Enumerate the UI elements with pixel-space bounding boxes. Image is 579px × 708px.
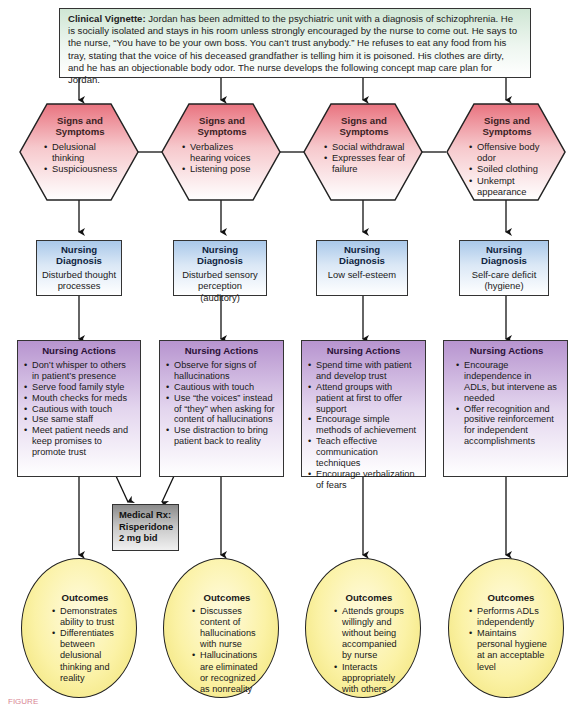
signs-title: Signs and Symptoms — [465, 115, 549, 137]
sign-item: Delusional thinking — [44, 141, 122, 163]
signs-title: Signs and Symptoms — [322, 115, 406, 137]
vignette-label: Clinical Vignette: — [68, 13, 146, 24]
clinical-vignette-box: Clinical Vignette: Jordan has been admit… — [59, 8, 531, 78]
diagnosis-text: Self-care deficit (hygiene) — [464, 269, 544, 292]
action-item: Encourage verbalization of fears — [308, 469, 419, 491]
outcome-item: Demonstrates ability to trust — [52, 606, 118, 628]
sign-item: Social withdrawal — [324, 141, 406, 152]
outcome-item: Attends groups willingly and without bei… — [334, 606, 404, 661]
diagnosis-text: Disturbed sensory perception (auditory) — [178, 269, 262, 303]
sign-item: Verbalizes hearing voices — [182, 141, 264, 163]
action-item: Serve food family style — [24, 382, 134, 393]
signs-title: Signs and Symptoms — [180, 115, 264, 137]
action-item: Mouth checks for meds — [24, 393, 134, 404]
outcome-item: Hallucinations are eliminated or recogni… — [192, 650, 262, 694]
nursing-actions-2: Nursing Actions Observe for signs of hal… — [159, 340, 284, 477]
nursing-diagnosis-4: Nursing Diagnosis Self-care deficit (hyg… — [459, 240, 549, 296]
outcome-item: Interacts appropriately with others — [334, 662, 404, 695]
diagnosis-text: Disturbed thought processes — [41, 269, 117, 292]
signs-symptoms-1: Signs and Symptoms Delusional thinking S… — [38, 115, 122, 175]
diagnosis-title: Nursing Diagnosis — [178, 244, 262, 266]
action-item: Attend groups with patient at first to o… — [308, 382, 419, 415]
actions-title: Nursing Actions — [24, 346, 134, 357]
action-item: Encourage independence in ADLs, but inte… — [456, 360, 557, 404]
action-item: Encourage simple methods of achievement — [308, 414, 419, 436]
outcomes-oval-2: Outcomes Discusses content of hallucinat… — [163, 558, 279, 698]
signs-symptoms-2: Signs and Symptoms Verbalizes hearing vo… — [180, 115, 264, 175]
sign-item: Expresses fear of failure — [324, 152, 406, 174]
action-item: Offer recognition and positive reinforce… — [456, 404, 557, 448]
outcome-item: Differentiates between delusional thinki… — [52, 628, 118, 683]
outcomes-oval-1: Outcomes Demonstrates ability to trust D… — [21, 558, 137, 698]
outcomes-oval-4: Outcomes Performs ADLs independently Mai… — [448, 558, 564, 698]
sign-item: Soiled clothing — [469, 163, 549, 174]
action-item: Cautious with touch — [24, 404, 134, 415]
outcomes-title: Outcomes — [334, 592, 404, 603]
medical-rx-box: Medical Rx: Risperidone 2 mg bid — [112, 504, 179, 551]
nursing-diagnosis-2: Nursing Diagnosis Disturbed sensory perc… — [173, 240, 267, 296]
outcome-item: Performs ADLs independently — [469, 606, 553, 628]
action-item: Spend time with patient and develop trus… — [308, 360, 419, 382]
action-item: Meet patient needs and keep promises to … — [24, 425, 134, 458]
sign-item: Listening pose — [182, 163, 264, 174]
outcomes-title: Outcomes — [469, 592, 553, 603]
rx-label: Medical Rx: — [119, 509, 172, 521]
actions-title: Nursing Actions — [166, 346, 277, 357]
nursing-actions-1: Nursing Actions Don’t whisper to others … — [17, 340, 141, 477]
diagnosis-title: Nursing Diagnosis — [321, 244, 403, 266]
action-item: Use “the voices” instead of “they” when … — [166, 393, 277, 426]
diagnosis-text: Low self-esteem — [321, 269, 403, 280]
signs-symptoms-4: Signs and Symptoms Offensive body odor S… — [465, 115, 549, 197]
signs-symptoms-3: Signs and Symptoms Social withdrawal Exp… — [322, 115, 406, 175]
outcomes-oval-3: Outcomes Attends groups willingly and wi… — [305, 558, 421, 698]
nursing-diagnosis-3: Nursing Diagnosis Low self-esteem — [316, 240, 408, 296]
outcome-item: Discusses content of hallucinations with… — [192, 606, 262, 650]
action-item: Observe for signs of hallucinations — [166, 360, 277, 382]
sign-item: Suspiciousness — [44, 163, 122, 174]
action-item: Use same staff — [24, 414, 134, 425]
diagnosis-title: Nursing Diagnosis — [41, 244, 117, 266]
action-item: Cautious with touch — [166, 382, 277, 393]
nursing-diagnosis-1: Nursing Diagnosis Disturbed thought proc… — [36, 240, 122, 296]
nursing-actions-3: Nursing Actions Spend time with patient … — [301, 340, 426, 477]
outcome-item: Maintains personal hygiene at an accepta… — [469, 628, 553, 672]
action-item: Teach effective communication techniques — [308, 436, 419, 469]
action-item: Use distraction to bring patient back to… — [166, 425, 277, 447]
action-item: Don’t whisper to others in patient’s pre… — [24, 360, 134, 382]
sign-item: Offensive body odor — [469, 141, 549, 163]
nursing-actions-4: Nursing Actions Encourage independence i… — [443, 340, 568, 477]
outcomes-title: Outcomes — [192, 592, 262, 603]
rx-drug: Risperidone — [119, 521, 172, 533]
actions-title: Nursing Actions — [308, 346, 419, 357]
figure-caption: FIGURE — [8, 697, 38, 706]
outcomes-title: Outcomes — [52, 592, 118, 603]
diagnosis-title: Nursing Diagnosis — [464, 244, 544, 266]
signs-title: Signs and Symptoms — [38, 115, 122, 137]
rx-dose: 2 mg bid — [119, 532, 172, 544]
actions-title: Nursing Actions — [456, 346, 557, 357]
sign-item: Unkempt appearance — [469, 175, 549, 197]
